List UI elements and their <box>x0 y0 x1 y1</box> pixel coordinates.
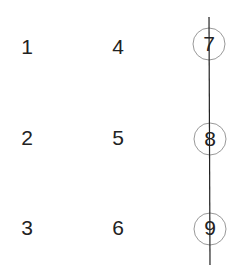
digit-1: 1 <box>21 35 33 58</box>
digits: 1 2 3 4 5 6 7 8 9 <box>21 32 216 239</box>
digit-5: 5 <box>112 126 124 149</box>
digit-2: 2 <box>21 126 33 149</box>
digit-3: 3 <box>21 216 33 239</box>
diagram-canvas: 1 2 3 4 5 6 7 8 9 <box>0 0 249 271</box>
diagram-svg: 1 2 3 4 5 6 7 8 9 <box>0 0 249 271</box>
digit-6: 6 <box>112 216 124 239</box>
digit-4: 4 <box>112 35 124 58</box>
